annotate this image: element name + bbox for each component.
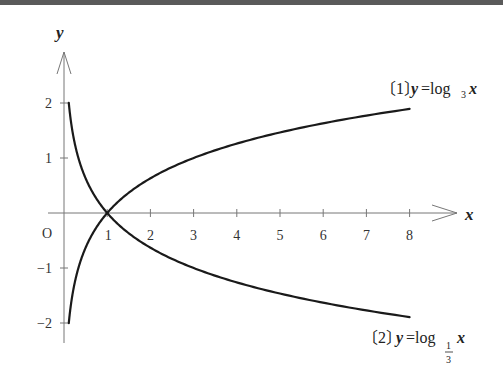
y-tick-label: −1 <box>37 261 52 276</box>
x-tick-label: 3 <box>190 228 197 243</box>
series-1-label: 〔1〕 y =log 3 x <box>380 80 477 100</box>
series-1-curve <box>69 109 410 323</box>
series-1-eq: =log <box>421 80 450 98</box>
series-1-x: x <box>468 80 477 97</box>
series-2-base-den: 3 <box>446 354 451 365</box>
series-2-base-num: 1 <box>446 340 451 351</box>
chart-canvas: 1234567821−1−2 x y O 〔1〕 y =log 3 x 〔2〕 … <box>0 0 503 390</box>
origin-label: O <box>42 226 52 241</box>
series-2-eq: =log <box>406 329 435 347</box>
series-2-y: y <box>394 329 404 347</box>
series-2-x: x <box>456 329 465 346</box>
x-tick-label: 7 <box>363 228 370 243</box>
x-tick-label: 8 <box>406 228 413 243</box>
x-tick-label: 2 <box>147 228 154 243</box>
series-2-label: 〔2〕 y =log 1 3 x <box>362 329 465 365</box>
labels: x y O 〔1〕 y =log 3 x 〔2〕 y =log 1 3 x <box>42 23 477 365</box>
y-tick-label: −2 <box>37 316 52 331</box>
x-tick-label: 6 <box>320 228 327 243</box>
x-tick-label: 4 <box>233 228 240 243</box>
x-axis-label: x <box>464 205 474 224</box>
y-tick-label: 2 <box>45 96 52 111</box>
series-1-y: y <box>409 80 419 98</box>
x-tick-label: 5 <box>277 228 284 243</box>
series-2-curve <box>69 103 410 317</box>
y-axis-label: y <box>54 23 64 42</box>
series-1-base: 3 <box>461 89 466 100</box>
x-tick-label: 1 <box>105 228 112 243</box>
y-tick-label: 1 <box>45 151 52 166</box>
